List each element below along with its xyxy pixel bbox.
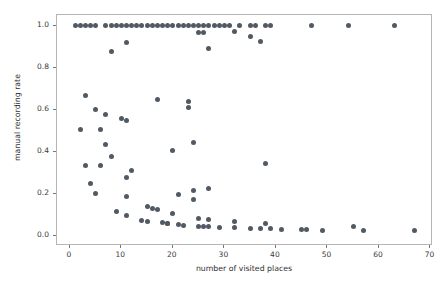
scatter-point <box>93 191 98 196</box>
scatter-point <box>139 218 144 223</box>
y-axis-tick <box>53 235 56 236</box>
scatter-point <box>176 222 181 227</box>
y-axis-tick <box>53 109 56 110</box>
scatter-point <box>248 23 253 28</box>
scatter-point <box>170 148 175 153</box>
scatter-point <box>237 23 242 28</box>
scatter-point <box>279 227 284 232</box>
x-axis-tick <box>120 245 121 248</box>
scatter-point <box>309 23 314 28</box>
scatter-point <box>124 40 129 45</box>
scatter-point <box>191 197 196 202</box>
scatter-point <box>83 93 88 98</box>
y-axis-tick-label: 0.6 <box>9 104 49 113</box>
scatter-point <box>186 99 191 104</box>
scatter-point <box>155 97 160 102</box>
scatter-point <box>145 219 150 224</box>
x-axis-tick <box>378 245 379 248</box>
scatter-point <box>155 207 160 212</box>
scatter-point <box>129 168 134 173</box>
x-axis-tick <box>223 245 224 248</box>
scatter-point <box>392 23 397 28</box>
scatter-point <box>248 34 253 39</box>
scatter-point <box>268 23 273 28</box>
scatter-point <box>165 221 170 226</box>
scatter-point <box>109 154 114 159</box>
scatter-point <box>170 23 175 28</box>
scatter-plot-figure: number of visited places manual recordin… <box>0 0 447 290</box>
x-axis-tick-label: 20 <box>152 250 192 259</box>
y-axis-tick-label: 0.2 <box>9 188 49 197</box>
scatter-point <box>78 23 83 28</box>
scatter-point <box>206 224 211 229</box>
y-axis-tick-label: 1.0 <box>9 20 49 29</box>
scatter-point <box>170 211 175 216</box>
scatter-point <box>253 23 258 28</box>
scatter-point <box>206 186 211 191</box>
scatter-point <box>248 226 253 231</box>
scatter-point <box>258 226 263 231</box>
scatter-point <box>206 217 211 222</box>
scatter-point <box>320 228 325 233</box>
x-axis-tick-label: 10 <box>100 250 140 259</box>
scatter-point <box>191 188 196 193</box>
scatter-point <box>212 23 217 28</box>
y-axis-tick-label: 0.8 <box>9 62 49 71</box>
y-axis-tick-label: 0.4 <box>9 146 49 155</box>
scatter-point <box>217 225 222 230</box>
scatter-point <box>361 228 366 233</box>
scatter-point <box>93 107 98 112</box>
scatter-point <box>176 192 181 197</box>
scatter-point <box>232 29 237 34</box>
scatter-point <box>346 23 351 28</box>
scatter-point <box>145 23 150 28</box>
scatter-point <box>124 213 129 218</box>
scatter-point <box>186 105 191 110</box>
scatter-point <box>124 194 129 199</box>
scatter-point <box>98 163 103 168</box>
scatter-point <box>93 23 98 28</box>
scatter-point <box>196 216 201 221</box>
scatter-point <box>201 30 206 35</box>
x-axis-tick <box>429 245 430 248</box>
scatter-point <box>103 142 108 147</box>
scatter-point <box>98 127 103 132</box>
scatter-point <box>124 118 129 123</box>
scatter-point <box>103 23 108 28</box>
scatter-point <box>103 112 108 117</box>
y-axis-tick-label: 0.0 <box>9 230 49 239</box>
scatter-point <box>206 46 211 51</box>
x-axis-tick-label: 70 <box>409 250 447 259</box>
x-axis-tick <box>275 245 276 248</box>
scatter-point <box>181 223 186 228</box>
scatter-point <box>114 23 119 28</box>
scatter-point <box>145 204 150 209</box>
scatter-point <box>263 161 268 166</box>
x-axis-tick <box>326 245 327 248</box>
scatter-point <box>232 225 237 230</box>
scatter-point <box>258 39 263 44</box>
y-axis-label: manual recording rate <box>13 58 22 178</box>
y-axis-tick <box>53 25 56 26</box>
scatter-point <box>73 23 78 28</box>
scatter-point <box>181 23 186 28</box>
x-axis-tick <box>69 245 70 248</box>
x-axis-tick-label: 30 <box>203 250 243 259</box>
plot-area <box>56 14 432 245</box>
scatter-point <box>232 219 237 224</box>
y-axis-tick <box>53 151 56 152</box>
x-axis-tick-label: 0 <box>49 250 89 259</box>
scatter-point <box>78 127 83 132</box>
scatter-point <box>268 226 273 231</box>
scatter-point <box>109 49 114 54</box>
scatter-point <box>124 175 129 180</box>
scatter-point <box>227 23 232 28</box>
scatter-point <box>304 227 309 232</box>
x-axis-tick <box>172 245 173 248</box>
scatter-point <box>114 209 119 214</box>
scatter-point <box>191 140 196 145</box>
x-axis-label: number of visited places <box>56 264 432 273</box>
scatter-point <box>176 23 181 28</box>
y-axis-tick <box>53 193 56 194</box>
scatter-point <box>83 163 88 168</box>
